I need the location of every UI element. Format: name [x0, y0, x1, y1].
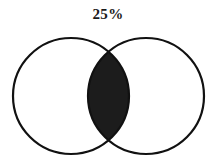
venn-diagram — [0, 0, 213, 163]
